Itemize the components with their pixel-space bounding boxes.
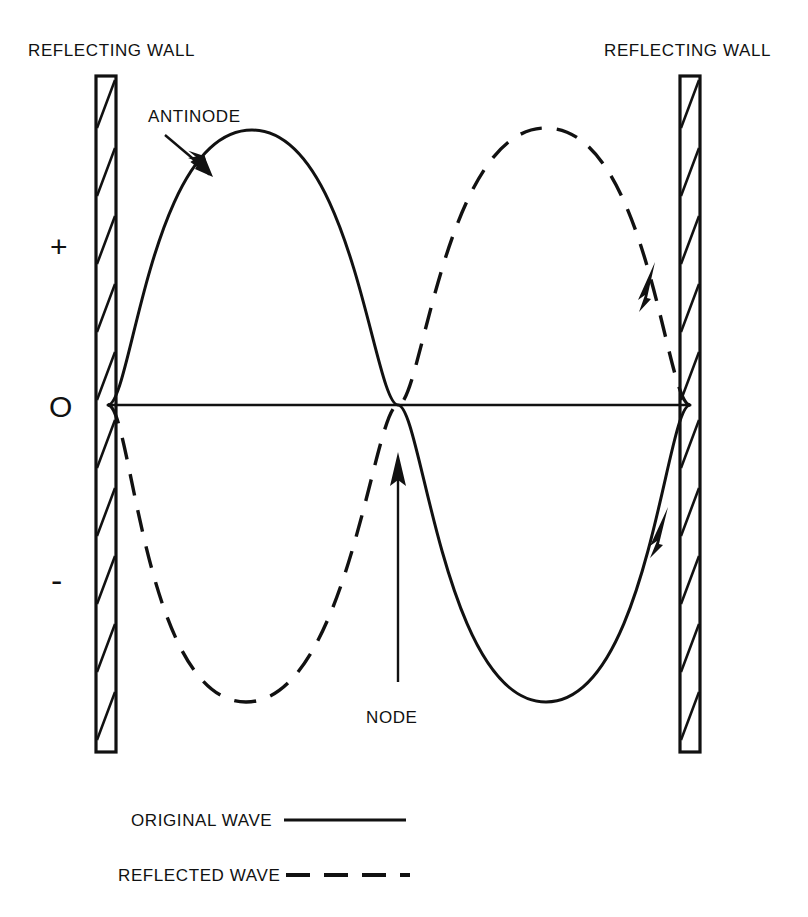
axis-label-positive: + [50, 230, 68, 263]
left-reflecting-wall [96, 76, 116, 752]
wave-diagram-canvas: REFLECTING WALL REFLECTING WALL [0, 0, 808, 917]
antinode-label: ANTINODE [148, 107, 241, 126]
legend-item-original-wave: ORIGINAL WAVE [131, 811, 406, 830]
axis-label-negative: - [51, 561, 62, 599]
legend-label-original-wave: ORIGINAL WAVE [131, 811, 272, 830]
node-label: NODE [366, 708, 418, 727]
standing-wave-figure: REFLECTING WALL REFLECTING WALL [0, 0, 808, 917]
antinode-arrowhead-fill [188, 155, 213, 177]
axis-label-zero: O [49, 390, 72, 423]
legend: ORIGINAL WAVE REFLECTED WAVE [118, 811, 410, 885]
legend-item-reflected-wave: REFLECTED WAVE [118, 866, 410, 885]
node-annotation: NODE [366, 452, 418, 727]
right-wall-label: REFLECTING WALL [604, 41, 771, 60]
left-wall-label: REFLECTING WALL [28, 41, 195, 60]
legend-label-reflected-wave: REFLECTED WAVE [118, 866, 280, 885]
